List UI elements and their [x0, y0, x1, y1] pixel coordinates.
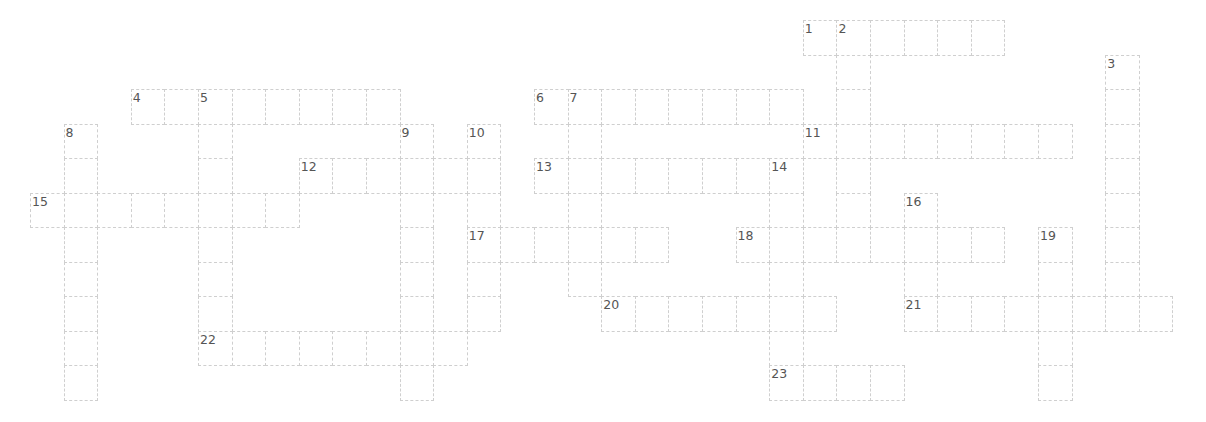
crossword-cell[interactable]: 7	[568, 89, 603, 125]
crossword-cell[interactable]	[198, 158, 233, 194]
crossword-cell[interactable]: 21	[904, 296, 939, 332]
crossword-cell[interactable]: 14	[769, 158, 804, 194]
crossword-cell[interactable]: 5	[198, 89, 233, 125]
crossword-cell[interactable]	[937, 296, 972, 332]
crossword-cell[interactable]	[433, 158, 468, 194]
crossword-cell[interactable]	[1038, 262, 1073, 298]
crossword-cell[interactable]: 17	[467, 227, 502, 263]
crossword-cell[interactable]	[198, 296, 233, 332]
crossword-cell[interactable]	[64, 331, 99, 367]
crossword-cell[interactable]	[836, 158, 871, 194]
crossword-cell[interactable]	[971, 124, 1006, 160]
crossword-cell[interactable]	[1105, 89, 1140, 125]
crossword-cell[interactable]	[971, 20, 1006, 56]
crossword-cell[interactable]	[299, 89, 334, 125]
crossword-cell[interactable]	[64, 262, 99, 298]
crossword-cell[interactable]: 22	[198, 331, 233, 367]
crossword-cell[interactable]	[803, 296, 838, 332]
crossword-cell[interactable]	[500, 227, 535, 263]
crossword-cell[interactable]	[400, 158, 435, 194]
crossword-cell[interactable]	[1004, 124, 1039, 160]
crossword-cell[interactable]	[1105, 262, 1140, 298]
crossword-cell[interactable]	[803, 227, 838, 263]
crossword-cell[interactable]	[937, 20, 972, 56]
crossword-cell[interactable]	[198, 227, 233, 263]
crossword-cell[interactable]	[1038, 365, 1073, 401]
crossword-cell[interactable]	[736, 158, 771, 194]
crossword-cell[interactable]	[635, 89, 670, 125]
crossword-cell[interactable]	[971, 296, 1006, 332]
crossword-cell[interactable]	[232, 193, 267, 229]
crossword-cell[interactable]: 20	[601, 296, 636, 332]
crossword-cell[interactable]	[601, 227, 636, 263]
crossword-cell[interactable]	[232, 331, 267, 367]
crossword-cell[interactable]	[1105, 124, 1140, 160]
crossword-cell[interactable]	[64, 227, 99, 263]
crossword-cell[interactable]	[164, 89, 199, 125]
crossword-cell[interactable]: 3	[1105, 55, 1140, 91]
crossword-cell[interactable]	[668, 89, 703, 125]
crossword-cell[interactable]	[736, 296, 771, 332]
crossword-cell[interactable]	[635, 296, 670, 332]
crossword-cell[interactable]	[702, 158, 737, 194]
crossword-cell[interactable]	[568, 262, 603, 298]
crossword-cell[interactable]	[904, 227, 939, 263]
crossword-cell[interactable]	[467, 193, 502, 229]
crossword-cell[interactable]	[198, 124, 233, 160]
crossword-cell[interactable]: 8	[64, 124, 99, 160]
crossword-cell[interactable]	[64, 365, 99, 401]
crossword-cell[interactable]: 19	[1038, 227, 1073, 263]
crossword-cell[interactable]: 9	[400, 124, 435, 160]
crossword-cell[interactable]	[467, 296, 502, 332]
crossword-cell[interactable]	[332, 158, 367, 194]
crossword-cell[interactable]	[265, 331, 300, 367]
crossword-cell[interactable]	[1105, 227, 1140, 263]
crossword-cell[interactable]	[400, 227, 435, 263]
crossword-cell[interactable]: 12	[299, 158, 334, 194]
crossword-cell[interactable]	[836, 193, 871, 229]
crossword-cell[interactable]	[1072, 296, 1107, 332]
crossword-cell[interactable]	[702, 89, 737, 125]
crossword-cell[interactable]	[870, 124, 905, 160]
crossword-cell[interactable]	[400, 262, 435, 298]
crossword-cell[interactable]	[870, 227, 905, 263]
crossword-cell[interactable]	[400, 296, 435, 332]
crossword-cell[interactable]	[568, 227, 603, 263]
crossword-cell[interactable]	[635, 227, 670, 263]
crossword-cell[interactable]	[937, 124, 972, 160]
crossword-cell[interactable]: 2	[836, 20, 871, 56]
crossword-cell[interactable]	[332, 89, 367, 125]
crossword-cell[interactable]	[702, 296, 737, 332]
crossword-cell[interactable]	[64, 158, 99, 194]
crossword-cell[interactable]	[769, 262, 804, 298]
crossword-cell[interactable]	[467, 262, 502, 298]
crossword-cell[interactable]: 15	[30, 193, 65, 229]
crossword-cell[interactable]	[668, 158, 703, 194]
crossword-cell[interactable]	[299, 331, 334, 367]
crossword-cell[interactable]	[668, 296, 703, 332]
crossword-cell[interactable]	[1038, 124, 1073, 160]
crossword-cell[interactable]	[1105, 158, 1140, 194]
crossword-cell[interactable]	[836, 124, 871, 160]
crossword-cell[interactable]	[769, 227, 804, 263]
crossword-cell[interactable]	[366, 89, 401, 125]
crossword-cell[interactable]	[265, 89, 300, 125]
crossword-cell[interactable]: 11	[803, 124, 838, 160]
crossword-cell[interactable]	[97, 193, 132, 229]
crossword-cell[interactable]: 10	[467, 124, 502, 160]
crossword-cell[interactable]	[64, 296, 99, 332]
crossword-cell[interactable]	[131, 193, 166, 229]
crossword-cell[interactable]	[265, 193, 300, 229]
crossword-cell[interactable]	[769, 193, 804, 229]
crossword-cell[interactable]	[400, 331, 435, 367]
crossword-cell[interactable]	[836, 227, 871, 263]
crossword-cell[interactable]	[971, 227, 1006, 263]
crossword-cell[interactable]	[769, 89, 804, 125]
crossword-cell[interactable]	[769, 296, 804, 332]
crossword-cell[interactable]	[433, 331, 468, 367]
crossword-cell[interactable]	[232, 89, 267, 125]
crossword-cell[interactable]	[803, 365, 838, 401]
crossword-cell[interactable]	[904, 124, 939, 160]
crossword-cell[interactable]	[1105, 193, 1140, 229]
crossword-cell[interactable]	[366, 158, 401, 194]
